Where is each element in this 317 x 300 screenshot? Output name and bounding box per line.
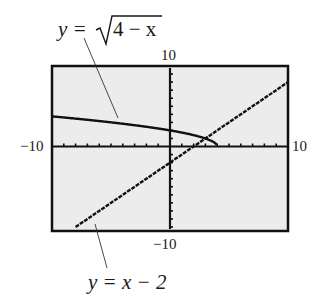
x-min-label: −10	[20, 138, 43, 155]
linear-eq-text: y = x − 2	[88, 270, 166, 294]
sqrt-equation-label: y =	[58, 17, 87, 42]
sqrt-eq-prefix: y =	[58, 17, 87, 41]
radicand-text: 4 − x	[113, 17, 156, 41]
sqrt-equation-radicand: 4 − x	[113, 17, 156, 42]
y-min-label: −10	[153, 236, 176, 253]
x-max-label: 10	[292, 138, 307, 155]
linear-equation-label: y = x − 2	[88, 270, 166, 295]
graph-canvas	[0, 0, 317, 300]
y-max-label: 10	[161, 47, 176, 64]
